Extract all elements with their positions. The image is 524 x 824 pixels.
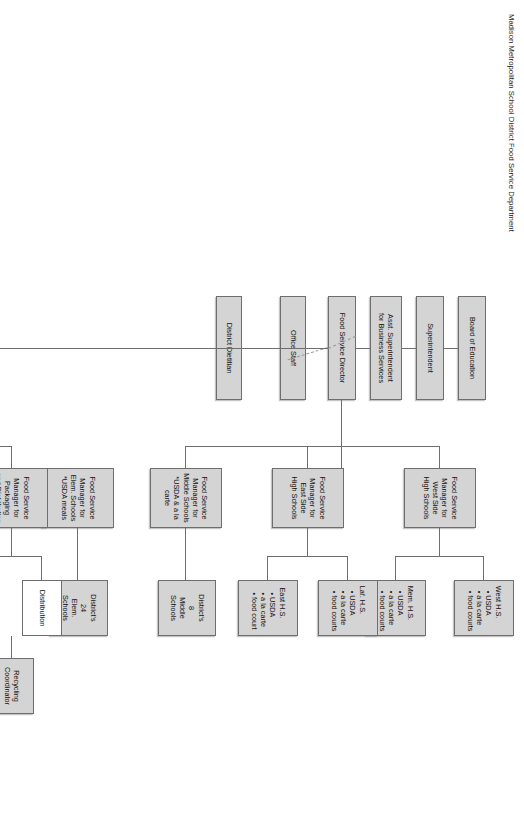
node-label: Distribution [37,583,46,633]
connector-bus-schools [341,446,440,447]
node-label-line-1: District's [89,594,98,621]
connector-bus-east-side [307,446,308,468]
node-label-line-3: Middle [178,597,187,619]
node-label-line-1: Food Service [450,477,459,520]
node-label-line-3: Packaging [3,481,12,515]
node-label: Food Service Director [337,299,346,397]
node-label-line-1: Food Service [318,477,327,520]
node-label-line-3: Middle Schools [182,473,191,522]
connector-west-hs [483,556,484,580]
node-label-line-2: Manager for [308,478,317,517]
connector-recycling [11,636,12,658]
school-bullet-2: • a la carte [339,585,348,632]
connector-coordinator-packaging [11,446,12,468]
node-label-line-4: Schools [169,595,178,621]
node-label-line-2: Manager for [191,478,200,517]
node-manager-elementary-schools[interactable]: Food Service Manager for Elem. Schools *… [42,468,114,528]
node-label-line-1: Food Service [200,477,209,520]
node-distribution[interactable]: Distribution [22,580,62,636]
node-label: Board of Education [467,299,476,397]
node-district-middle-schools[interactable]: District's 8 Middle Schools [158,580,216,636]
node-manager-middle-schools[interactable]: Food Service Manager for Middle Schools … [150,468,222,528]
node-label-line-4: Schools [61,595,70,621]
connector-packaging-vertical [0,556,42,557]
school-bullet-3: • food court [249,586,258,629]
node-label-line-3: West Side [431,481,440,514]
school-bullet-1: • USDA [484,585,493,632]
connector-superintendent-asst [402,348,416,349]
node-east-high-school[interactable]: East H.S. • USDA • a la carte • food cou… [238,580,298,636]
school-bullet-2: • a la carte [259,586,268,629]
node-label: Superintendent [425,299,434,397]
connector-asst-director [356,348,370,349]
node-label-line-3: Elem. [70,599,79,618]
node-manager-west-side-high-schools[interactable]: Food Service Manager for West Side High … [404,468,476,528]
node-label-line-3: Elem. Schools [69,475,78,522]
connector-elem-schools [77,528,78,580]
node-label-line-2: Coordinator [3,667,12,705]
school-name: Mem. H.S. [405,585,414,632]
node-lafollette-high-school[interactable]: Laf. H.S. • USDA • a la carte • food cou… [318,580,378,636]
school-bullet-2: • a la carte [387,585,396,632]
school-name: Laf. H.S. [357,585,366,632]
node-label-line-1: Recycling [12,670,21,702]
school-bullet-1: • USDA [348,585,357,632]
node-board-of-education[interactable]: Board of Education [458,296,486,400]
node-label-line-1: Asst. Superintendent [386,314,395,382]
node-label-line-1: Food Service [88,476,97,519]
node-asst-superintendent[interactable]: Asst. Superintendent for Business Servic… [370,296,402,400]
node-label-line-4: *USDA & a la carte [163,476,181,519]
node-food-service-director[interactable]: Food Service Director [328,296,356,400]
school-bullet-1: • USDA [268,586,277,629]
school-bullet-3: • food courts [377,585,386,632]
node-label-line-3: East Side [299,482,308,513]
node-superintendent[interactable]: Superintendent [416,296,444,400]
connector-director-bus [341,400,342,446]
school-bullet-1: • USDA [396,585,405,632]
org-chart-rotated-layer: Madison Metropolitan School District Foo… [0,0,524,824]
school-bullet-2: • a la carte [475,585,484,632]
node-label-line-1: District's [197,594,206,621]
connector-mem-hs [395,556,396,580]
node-manager-east-side-high-schools[interactable]: Food Service Manager for East Side High … [272,468,344,528]
connector-bus-elem [341,446,342,468]
node-label-line-4: *USDA meals [60,476,69,520]
connector-middle-schools [185,528,186,580]
node-label-line-2: 8 [187,606,196,610]
chart-title: Madison Metropolitan School District Foo… [507,14,516,232]
connector-west-side-bus [439,528,440,556]
node-label-line-2: Manager for [78,478,87,517]
connector-bus-middle [185,446,186,468]
node-recycling-coordinator[interactable]: Recycling Coordinator [0,658,34,714]
connector-bus-west-side [439,446,440,468]
connector-west-side-vertical [396,556,484,557]
school-bullet-3: • food courts [465,585,474,632]
node-label-line-2: Manager for [12,478,21,517]
connector-packaging-bus [11,528,12,556]
connector-bus-schools-lower [186,446,342,447]
node-manager-packaging-distribution[interactable]: Food Service Manager for Packaging and D… [0,468,48,528]
connector-east-side-vertical [268,556,348,557]
node-label-line-2: 24 [79,604,88,612]
school-name: East H.S. [277,586,286,629]
node-label-line-4: and Distribution [0,473,3,524]
node-label-line-4: High Schools [422,477,431,520]
school-name: West H.S. [493,585,502,632]
node-label-line-4: High Schools [290,477,299,520]
school-bullet-3: • food courts [329,585,338,632]
connector-director-to-coordinator [0,348,328,349]
org-chart-canvas: Madison Metropolitan School District Foo… [0,0,524,824]
connector-board-superintendent [444,348,458,349]
node-west-high-school[interactable]: West H.S. • USDA • a la carte • food cou… [454,580,514,636]
node-label-line-2: Manager for [440,478,449,517]
node-label-line-1: Food Service [22,476,31,519]
connector-east-hs [267,556,268,580]
connector-distribution [41,556,42,580]
connector-east-side-bus [307,528,308,556]
node-label-line-2: for Business Services [377,313,386,383]
connector-laf-hs [347,556,348,580]
